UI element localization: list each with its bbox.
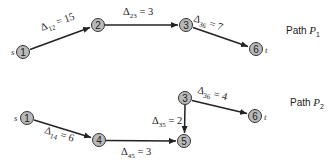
edge-label-23: Δ23 = 3 [123, 6, 153, 20]
svg-text:1: 1 [20, 47, 26, 58]
node-4: 4 [93, 134, 106, 147]
edge-label-14: Δ14 = 6 [43, 124, 76, 146]
node-6: 6 [249, 110, 262, 123]
node-2: 2 [92, 19, 105, 32]
sink-label: t [264, 112, 267, 122]
edge-label-35: Δ35 = 2 [152, 115, 182, 129]
node-5: 5 [178, 135, 191, 148]
node-3: 3 [179, 92, 192, 105]
edge-label-12: Δ12 = 15 [39, 10, 77, 35]
node-6: 6 [250, 43, 263, 56]
svg-text:6: 6 [252, 111, 258, 122]
node-1: 1 [21, 112, 34, 125]
svg-text:3: 3 [183, 20, 189, 31]
source-label: s [11, 47, 15, 57]
edge-3-6-p2 [192, 101, 247, 114]
path-p2: Δ14 = 6 Δ45 = 3 Δ35 = 2 Δ36 = 4 1 4 3 5 … [14, 84, 324, 160]
edge-1-2 [30, 28, 90, 50]
node-3: 3 [180, 19, 193, 32]
edge-3-5 [185, 105, 186, 133]
path-p2-label: Path P2 [290, 96, 324, 110]
svg-text:2: 2 [95, 20, 101, 31]
path-p1-label: Path P1 [286, 24, 320, 38]
network-paths-diagram: Δ12 = 15 Δ23 = 3 Δ36 = 7 1 2 3 6 s t Pat… [0, 0, 335, 163]
svg-text:6: 6 [253, 44, 259, 55]
path-p1: Δ12 = 15 Δ23 = 3 Δ36 = 7 1 2 3 6 s t Pat… [11, 6, 320, 59]
edge-4-5 [106, 141, 176, 142]
svg-text:5: 5 [181, 136, 187, 147]
svg-text:3: 3 [182, 93, 188, 104]
node-1: 1 [17, 46, 30, 59]
source-label: s [14, 113, 18, 123]
edge-label-45: Δ45 = 3 [121, 146, 151, 160]
sink-label: t [265, 45, 268, 55]
svg-text:1: 1 [24, 113, 30, 124]
svg-text:4: 4 [96, 135, 102, 146]
